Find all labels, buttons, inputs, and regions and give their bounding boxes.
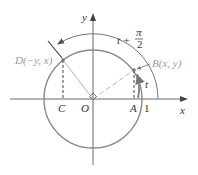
label-t-plus: t + bbox=[117, 34, 130, 46]
label-B: B(x, y) bbox=[152, 57, 182, 70]
radius-OB bbox=[93, 70, 134, 99]
unit-circle-diagram: y x O C A 1 B(x, y) D(−y, x) t t + π 2 bbox=[0, 0, 198, 175]
y-axis bbox=[90, 13, 96, 165]
radius-OD bbox=[63, 60, 93, 99]
label-two: 2 bbox=[137, 38, 143, 50]
point-D bbox=[61, 58, 65, 62]
B-pointer bbox=[137, 64, 150, 69]
label-t-plus-pi-over-2: t + π 2 bbox=[117, 26, 143, 50]
label-D: D(−y, x) bbox=[14, 54, 53, 67]
label-t: t bbox=[145, 78, 149, 90]
point-B bbox=[132, 68, 136, 72]
label-C: C bbox=[58, 102, 66, 114]
arc-t bbox=[137, 74, 139, 98]
y-axis-label: y bbox=[81, 11, 87, 23]
label-one: 1 bbox=[144, 102, 150, 114]
x-axis bbox=[10, 96, 188, 102]
label-pi: π bbox=[136, 26, 142, 38]
label-O: O bbox=[81, 102, 89, 114]
x-axis-label: x bbox=[179, 104, 185, 116]
label-A: A bbox=[129, 102, 137, 114]
